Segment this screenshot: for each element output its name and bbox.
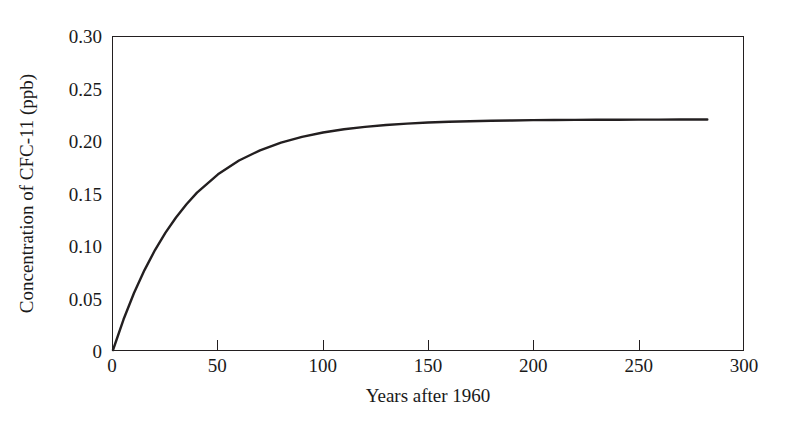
- x-tick-label: 50: [182, 356, 252, 375]
- y-axis-title: Concentration of CFC-11 (ppb): [14, 36, 40, 351]
- series-line-cfc-11: [113, 120, 707, 350]
- y-tick-label: 0.05: [44, 290, 102, 309]
- x-tick-mark: [428, 340, 429, 351]
- x-tick-label: 150: [393, 356, 463, 375]
- x-tick-mark: [533, 340, 534, 351]
- figure-container: Concentration of CFC-11 (ppb) 00.050.100…: [0, 0, 792, 426]
- y-tick-label: 0.25: [44, 80, 102, 99]
- x-tick-label: 200: [498, 356, 568, 375]
- x-tick-label: 250: [604, 356, 674, 375]
- y-tick-label: 0.10: [44, 237, 102, 256]
- plot-area: [113, 37, 743, 350]
- y-tick-label: 0.15: [44, 185, 102, 204]
- x-tick-label: 0: [77, 356, 147, 375]
- x-tick-mark: [323, 340, 324, 351]
- curve-svg: [113, 37, 743, 350]
- x-tick-label: 300: [709, 356, 779, 375]
- y-tick-label: 0.30: [44, 27, 102, 46]
- x-tick-mark: [217, 340, 218, 351]
- x-tick-label: 100: [288, 356, 358, 375]
- plot-frame: [112, 36, 744, 351]
- y-tick-label: 0.20: [44, 132, 102, 151]
- x-tick-mark: [639, 340, 640, 351]
- x-axis-title: Years after 1960: [112, 386, 744, 405]
